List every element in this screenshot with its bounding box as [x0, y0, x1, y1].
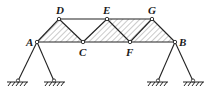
joint-a	[35, 40, 38, 43]
joint-f	[128, 40, 131, 43]
label-d: D	[55, 4, 64, 16]
support-link-a-right	[37, 42, 54, 81]
ground-icon	[147, 79, 168, 86]
support-link-b-left	[158, 42, 175, 81]
hatched-region-cegb	[83, 19, 175, 42]
label-e: E	[102, 4, 110, 16]
label-f: F	[125, 46, 134, 58]
joint-e	[105, 17, 108, 20]
label-c: C	[79, 46, 87, 58]
joint-d	[57, 17, 60, 20]
label-a: A	[25, 36, 33, 48]
support-links	[18, 42, 193, 81]
ground-supports	[7, 79, 204, 86]
ground-icon	[183, 79, 204, 86]
ground-icon	[44, 79, 65, 86]
hatched-region-adc	[37, 19, 83, 42]
ground-icon	[7, 79, 28, 86]
joint-b	[173, 40, 176, 43]
label-b: B	[178, 36, 186, 48]
joint-c	[81, 40, 84, 43]
joint-g	[150, 17, 153, 20]
truss-diagram: D E G A C F B	[0, 0, 208, 98]
label-g: G	[148, 4, 156, 16]
